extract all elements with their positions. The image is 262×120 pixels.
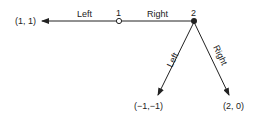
node1-label: 1 bbox=[116, 8, 121, 18]
node1-open-circle-icon bbox=[116, 18, 121, 23]
payoff-left-outcome: (1, 1) bbox=[15, 16, 36, 26]
game-tree-diagram: 1 2 Left Right Left Right (1, 1) (−1,−1)… bbox=[0, 0, 262, 120]
node2-label: 2 bbox=[191, 8, 196, 18]
edge-label-node1-left: Left bbox=[77, 9, 93, 19]
payoff-node2-right-outcome: (2, 0) bbox=[223, 101, 244, 111]
payoff-node2-left-outcome: (−1,−1) bbox=[134, 101, 163, 111]
edge-label-node1-right: Right bbox=[147, 9, 169, 19]
node2-filled-circle-icon bbox=[191, 18, 197, 24]
